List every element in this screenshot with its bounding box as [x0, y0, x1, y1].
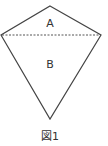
- figure-caption: 図1: [41, 130, 59, 143]
- region-label-a: A: [46, 17, 54, 30]
- region-label-b: B: [46, 58, 54, 71]
- kite-diagram: A B 図1: [0, 0, 108, 146]
